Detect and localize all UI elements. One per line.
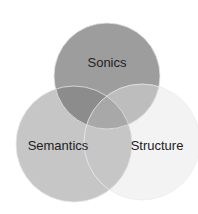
venn-diagram: Sonics Semantics Structure xyxy=(0,0,198,214)
label-sonics: Sonics xyxy=(87,55,127,70)
label-semantics: Semantics xyxy=(28,138,89,153)
label-structure: Structure xyxy=(131,138,184,153)
